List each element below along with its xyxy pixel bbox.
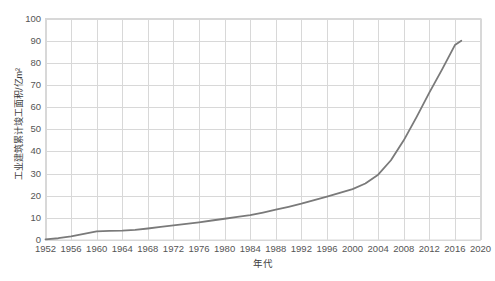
plot-area [0,0,495,281]
x-axis-ticks: 1952195619601964196819721976198019841988… [0,243,495,259]
chart-container: 0102030405060708090100 19521956196019641… [0,0,495,281]
grid-lines [46,19,482,241]
x-axis-tick-label: 2020 [461,243,495,255]
y-axis-label: 工业建筑累计竣工面积/亿m² [12,4,26,244]
x-axis-label: 年代 [45,258,481,270]
series-line [46,41,462,240]
